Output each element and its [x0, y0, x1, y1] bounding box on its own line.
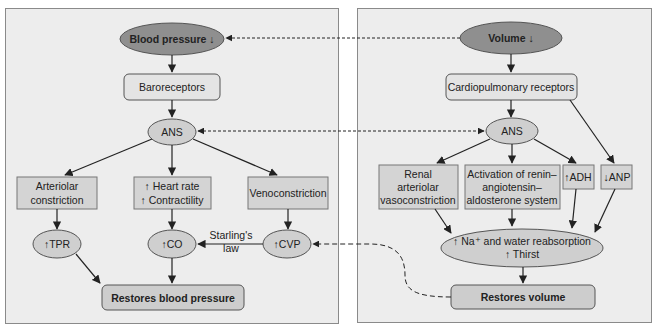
- volume-label: Volume ↓: [488, 32, 533, 44]
- effector-label: aldosterone system: [466, 194, 557, 206]
- cvp-label: ↑CVP: [274, 238, 301, 250]
- effector-label: Renal: [404, 168, 431, 180]
- starling-label: Starling's: [210, 229, 253, 241]
- effector-label: ↓ANP: [604, 171, 631, 183]
- effector-label: Venoconstriction: [249, 187, 326, 199]
- ans-label-right: ANS: [501, 125, 523, 137]
- restores-volume-label: Restores volume: [481, 291, 566, 303]
- effector-label: Arteriolar: [36, 180, 79, 192]
- co-label: ↑CO: [162, 238, 183, 250]
- blood-pressure-label: Blood pressure ↓: [129, 33, 214, 45]
- effector-label: constriction: [30, 194, 83, 206]
- diagram-canvas: Blood pressure ↓ Baroreceptors ANS Arter…: [0, 0, 658, 331]
- effector-label: Activation of renin–: [467, 168, 556, 180]
- reabsorption-label: ↑ Na⁺ and water reabsorption: [453, 235, 591, 247]
- tpr-label: ↑TPR: [44, 238, 71, 250]
- thirst-label: ↑ Thirst: [505, 248, 539, 260]
- effector-label: ↑ Heart rate: [145, 180, 200, 192]
- restores-blood-pressure-label: Restores blood pressure: [111, 292, 235, 304]
- starling-label: law: [223, 242, 239, 254]
- effector-label: angiotensin–: [482, 181, 542, 193]
- effector-label: ↑ Contractility: [140, 194, 204, 206]
- baroreceptors-label: Baroreceptors: [139, 81, 205, 93]
- effector-label: arteriolar: [397, 181, 439, 193]
- effector-label: vasoconstriction: [380, 194, 455, 206]
- effector-label: ↑ADH: [564, 171, 591, 183]
- cardiopulmonary-receptors-label: Cardiopulmonary receptors: [448, 81, 575, 93]
- ans-label-left: ANS: [161, 126, 183, 138]
